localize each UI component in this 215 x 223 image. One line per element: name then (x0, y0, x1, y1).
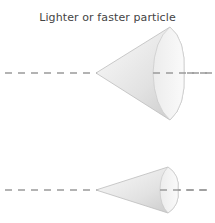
wide-cone (96, 27, 212, 120)
cone-diagram (0, 0, 215, 223)
narrow-cone (96, 167, 212, 213)
